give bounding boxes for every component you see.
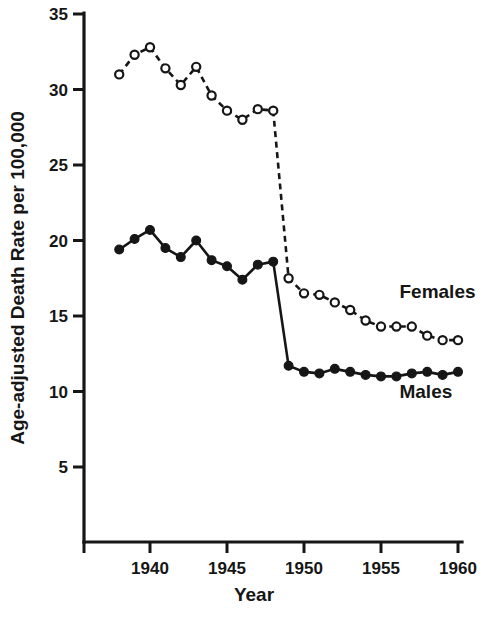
data-point-females (192, 63, 200, 71)
data-point-males (330, 364, 339, 373)
line-chart: 5101520253035 19401945195019551960 Femal… (0, 0, 495, 618)
y-tick-label: 10 (49, 383, 68, 402)
data-point-males (300, 367, 309, 376)
data-point-males (146, 226, 155, 235)
data-point-females (238, 116, 246, 124)
data-point-males (346, 367, 355, 376)
data-point-males (392, 372, 401, 381)
data-point-females (254, 105, 262, 113)
series-label-males: Males (399, 381, 452, 402)
y-tick-label: 15 (49, 307, 68, 326)
x-axis-title: Year (234, 584, 275, 605)
y-tick-label: 25 (49, 156, 68, 175)
series-annotations: FemalesMales (399, 281, 475, 402)
data-point-females (161, 64, 169, 72)
data-point-females (177, 81, 185, 89)
data-point-males (161, 244, 170, 253)
data-point-males (207, 256, 216, 265)
y-axis-title: Age-adjusted Death Rate per 100,000 (7, 111, 28, 445)
series-label-females: Females (399, 281, 475, 302)
y-tick-label: 30 (49, 81, 68, 100)
data-point-females (315, 291, 323, 299)
x-tick-label: 1955 (362, 559, 400, 578)
data-point-females (131, 51, 139, 59)
data-point-males (253, 260, 262, 269)
x-tick-label: 1945 (208, 559, 246, 578)
chart-figure: 5101520253035 19401945195019551960 Femal… (0, 0, 495, 618)
data-point-females (362, 316, 370, 324)
series-line-males (119, 230, 458, 376)
series-markers (115, 43, 463, 381)
data-point-females (115, 70, 123, 78)
data-point-males (284, 361, 293, 370)
data-point-females (285, 274, 293, 282)
data-point-females (300, 289, 308, 297)
data-point-males (454, 367, 463, 376)
data-point-males (115, 245, 124, 254)
data-point-males (176, 253, 185, 262)
x-axis-ticks: 19401945195019551960 (84, 542, 477, 578)
x-tick-label: 1950 (285, 559, 323, 578)
data-point-females (423, 332, 431, 340)
data-point-males (192, 236, 201, 245)
data-point-males (361, 370, 370, 379)
data-point-females (269, 107, 277, 115)
data-point-males (377, 372, 386, 381)
data-point-males (238, 275, 247, 284)
data-point-females (146, 43, 154, 51)
data-point-females (392, 322, 400, 330)
y-tick-label: 5 (59, 458, 68, 477)
data-point-males (407, 369, 416, 378)
data-point-females (346, 306, 354, 314)
x-tick-label: 1960 (439, 559, 477, 578)
data-point-males (223, 262, 232, 271)
data-point-females (439, 336, 447, 344)
y-tick-label: 35 (49, 5, 68, 24)
y-axis-ticks: 5101520253035 (49, 5, 84, 477)
data-point-females (331, 298, 339, 306)
data-point-males (269, 257, 278, 266)
data-point-females (408, 322, 416, 330)
data-point-males (315, 369, 324, 378)
x-tick-label: 1940 (131, 559, 169, 578)
data-point-males (130, 235, 139, 244)
data-point-females (208, 91, 216, 99)
data-point-males (423, 367, 432, 376)
data-point-females (454, 336, 462, 344)
y-tick-label: 20 (49, 232, 68, 251)
data-point-females (377, 322, 385, 330)
data-point-males (438, 370, 447, 379)
data-point-females (223, 107, 231, 115)
